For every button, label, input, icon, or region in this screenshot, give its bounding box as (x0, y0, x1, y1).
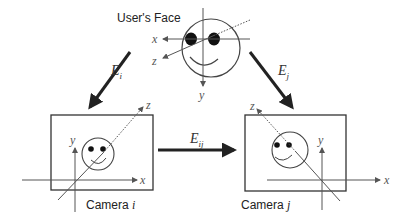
transform-ei-sub: i (120, 71, 123, 81)
camera-j-x-label: x (384, 173, 389, 188)
camera-j-y-label: y (318, 133, 323, 148)
camera-i-face-right-eye (100, 146, 106, 152)
camera-i-face-outline (82, 138, 114, 170)
camera-j-z-axis (296, 152, 340, 201)
face-smile (190, 57, 218, 65)
transform-label-ej: Ej (278, 63, 289, 81)
transform-eij-base: E (190, 131, 199, 146)
camera-j-face-left-eye (274, 142, 280, 148)
camera-i-y-label: y (70, 133, 75, 148)
camera-i-face-left-eye (88, 146, 94, 152)
camera-i-label-text: Camera (86, 198, 129, 212)
face-x-label: x (152, 32, 157, 47)
transform-ej-sub: j (287, 71, 290, 81)
camera-j-face-outline (272, 132, 308, 168)
face-z-axis-dotted (215, 20, 250, 35)
camera-i-z-axis (58, 153, 103, 200)
face-camera-extrinsics-diagram: User's Face x z y Ei Ej Eij y x z Camera… (0, 0, 402, 224)
camera-j-label-text: Camera (241, 198, 284, 212)
camera-i-label: Camera i (86, 198, 135, 213)
camera-j-face-smile (275, 155, 292, 160)
face-z-label: z (152, 54, 157, 69)
transform-ei-base: E (111, 63, 120, 78)
face-title: User's Face (117, 11, 181, 25)
camera-i-z-label: z (146, 98, 151, 113)
camera-j-z-label: z (250, 99, 255, 114)
camera-i (22, 107, 153, 212)
camera-i-z-axis-dotted (103, 107, 143, 153)
transform-ej-base: E (278, 63, 287, 78)
face-y-label: y (199, 88, 204, 103)
camera-i-frame (51, 115, 153, 190)
transform-eij-sub: ij (199, 139, 204, 149)
diagram-canvas (0, 0, 402, 224)
camera-j (245, 109, 380, 210)
camera-j-label: Camera j (241, 198, 290, 213)
transform-arrow-ei (90, 52, 130, 107)
camera-i-x-label: x (140, 173, 145, 188)
face-outline (182, 19, 240, 77)
transform-label-ei: Ei (111, 63, 122, 81)
transform-label-eij: Eij (190, 131, 204, 149)
camera-i-index: i (132, 198, 135, 212)
camera-j-index: j (287, 198, 290, 212)
